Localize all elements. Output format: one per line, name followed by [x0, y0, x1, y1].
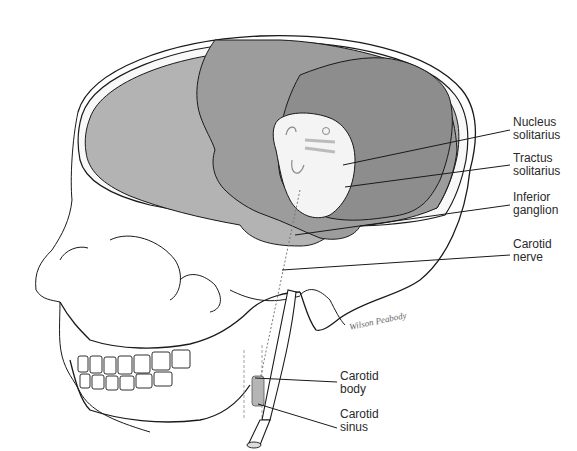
- label-tractus-solitarius: Tractus solitarius: [513, 152, 560, 178]
- label-line: nerve: [513, 251, 552, 264]
- label-carotid-nerve: Carotid nerve: [513, 238, 552, 264]
- leader-carotid-nerve: [282, 255, 510, 270]
- label-carotid-sinus: Carotid sinus: [340, 408, 379, 434]
- label-line: sinus: [340, 421, 379, 434]
- label-line: solitarius: [513, 129, 560, 142]
- label-line: ganglion: [513, 204, 558, 217]
- leader-carotid-body: [255, 378, 337, 382]
- label-inferior-ganglion: Inferior ganglion: [513, 191, 558, 217]
- skull-illustration: Wilson Peabody: [0, 0, 577, 451]
- label-line: body: [340, 383, 379, 396]
- anatomy-figure: Wilson Peabody Nucleus solitarius Tractu…: [0, 0, 577, 451]
- label-line: solitarius: [513, 165, 560, 178]
- label-nucleus-solitarius: Nucleus solitarius: [513, 116, 560, 142]
- cranial-rim: [78, 40, 468, 246]
- artist-signature: Wilson Peabody: [348, 310, 407, 332]
- teeth: [78, 350, 190, 390]
- label-carotid-body: Carotid body: [340, 370, 379, 396]
- facial-bones: [60, 236, 345, 325]
